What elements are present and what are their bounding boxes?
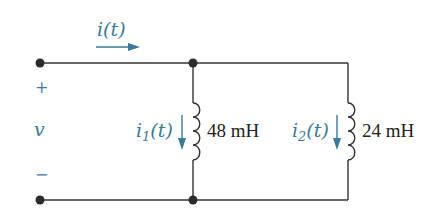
inductor-1-current-label: i1(t) bbox=[136, 119, 173, 144]
inductor-2-coil-icon bbox=[348, 103, 355, 160]
inductor-2-value: 24 mH bbox=[362, 120, 415, 141]
inductor-2-current-label: i2(t) bbox=[292, 119, 329, 144]
circuit-diagram: i(t) + v − i1(t) 48 mH i2(t) 24 mH bbox=[0, 0, 448, 223]
junction-top-node bbox=[189, 59, 198, 68]
source-current-arrowhead-icon bbox=[128, 43, 140, 51]
terminal-top-node bbox=[36, 59, 45, 68]
inductor-2-current-arrowhead-icon bbox=[333, 138, 341, 150]
source-current-label: i(t) bbox=[97, 18, 126, 40]
voltage-label: v bbox=[34, 118, 45, 140]
terminal-bottom-node bbox=[36, 196, 45, 205]
voltage-plus-sign: + bbox=[35, 78, 48, 97]
inductor-1-coil-icon bbox=[193, 103, 200, 160]
inductor-1-current-arrowhead-icon bbox=[178, 138, 186, 150]
voltage-minus-sign: − bbox=[35, 165, 48, 184]
junction-bottom-node bbox=[189, 196, 198, 205]
inductor-1-value: 48 mH bbox=[207, 120, 260, 141]
